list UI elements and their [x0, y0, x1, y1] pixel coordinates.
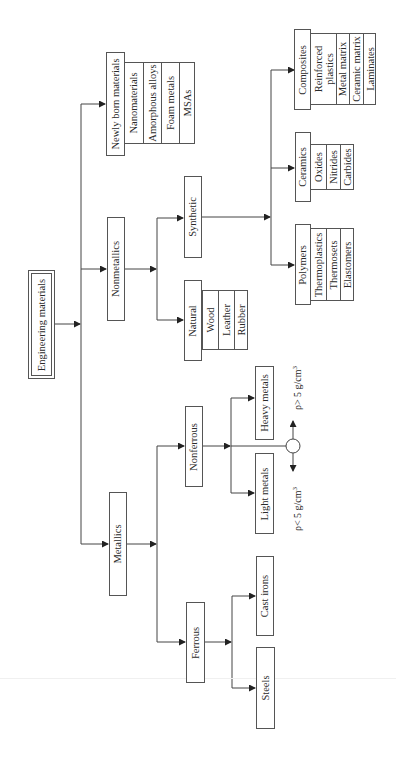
item-label: Wood — [205, 308, 216, 333]
density-exponent: 3 — [291, 366, 299, 370]
ceramics-items: Oxides Nitrides Carbides — [310, 144, 354, 190]
item-cell: Oxides — [311, 145, 326, 189]
item-label: Ceramic matrix — [351, 36, 362, 102]
item-label: MSAs — [182, 90, 193, 117]
node-light-metals: Light metals — [255, 453, 274, 534]
node-ceramics: Ceramics — [295, 132, 311, 202]
newly-born-items: Nanomaterials Amorphous alloys Foam meta… — [124, 62, 195, 144]
item-cell: MSAs — [179, 63, 196, 143]
item-label: Amorphous alloys — [147, 64, 158, 141]
item-cell: Carbides — [340, 145, 355, 189]
node-label: Ferrous — [190, 626, 201, 658]
node-ferrous: Ferrous — [186, 602, 205, 683]
node-label: Newly born materials — [110, 59, 121, 150]
node-polymers: Polymers — [295, 224, 311, 305]
item-cell: Ceramic matrix — [349, 34, 363, 104]
node-label: Heavy metals — [259, 374, 270, 431]
item-cell: Elastomers — [340, 229, 355, 300]
item-label: Thermoplastics — [313, 232, 324, 297]
node-synthetic: Synthetic — [184, 176, 202, 258]
composites-items: Reinforced plastics Metal matrix Ceramic… — [310, 33, 376, 105]
node-nonferrous: Nonferrous — [185, 406, 203, 487]
item-label: Thermosets — [328, 240, 339, 289]
item-cell: Leather — [218, 291, 234, 349]
node-cast-irons: Cast irons — [256, 556, 274, 636]
density-below-label: ρ< 5 g/cm3 — [291, 487, 303, 531]
node-label: Composites — [297, 45, 308, 95]
item-cell: Foam metals — [161, 63, 179, 143]
node-label: Nonferrous — [188, 423, 199, 471]
node-label: Ceramics — [297, 147, 308, 187]
item-cell: Thermosets — [326, 229, 340, 300]
item-label: Oxides — [313, 152, 324, 182]
item-cell: Wood — [203, 291, 218, 349]
item-label: Laminates — [365, 47, 376, 91]
root-label: Engineering materials — [36, 278, 47, 370]
item-label: Foam metals — [165, 76, 176, 130]
item-label: Rubber — [236, 305, 247, 336]
item-label: Carbides — [342, 148, 353, 185]
node-metallics: Metallics — [109, 492, 127, 596]
density-above-text: ρ> 5 g/cm — [292, 369, 303, 410]
item-label: Reinforced plastics — [312, 39, 334, 99]
item-cell: Laminates — [363, 34, 377, 104]
item-cell: Nitrides — [326, 145, 340, 189]
natural-items: Wood Leather Rubber — [202, 290, 248, 350]
root-node: Engineering materials — [28, 270, 55, 379]
node-label: Nonmetallics — [110, 241, 121, 297]
item-label: Leather — [221, 304, 232, 336]
item-label: Metal matrix — [337, 42, 348, 97]
item-cell: Reinforced plastics — [311, 34, 336, 104]
node-label: Steels — [260, 675, 271, 700]
item-cell: Metal matrix — [336, 34, 349, 104]
node-natural: Natural — [184, 280, 202, 361]
node-composites: Composites — [294, 29, 311, 110]
node-heavy-metals: Heavy metals — [255, 366, 274, 440]
node-nonmetallics: Nonmetallics — [107, 217, 125, 321]
density-below-text: ρ< 5 g/cm — [292, 490, 303, 531]
density-above-label: ρ> 5 g/cm3 — [291, 366, 303, 410]
node-steels: Steels — [256, 647, 275, 729]
polymers-items: Thermoplastics Thermosets Elastomers — [310, 228, 354, 301]
node-newly-born: Newly born materials — [106, 52, 125, 156]
node-label: Cast irons — [259, 575, 270, 617]
item-label: Nitrides — [328, 150, 339, 184]
item-cell: Thermoplastics — [311, 229, 326, 300]
node-label: Light metals — [259, 467, 270, 520]
node-label: Polymers — [297, 245, 308, 285]
item-label: Nanomaterials — [128, 72, 139, 133]
item-cell: Amorphous alloys — [143, 63, 161, 143]
node-label: Natural — [187, 305, 198, 337]
node-label: Metallics — [112, 524, 123, 563]
density-exponent: 3 — [291, 487, 299, 491]
item-cell: Nanomaterials — [125, 63, 143, 143]
item-label: Elastomers — [342, 241, 353, 288]
item-cell: Rubber — [234, 291, 249, 349]
node-label: Synthetic — [187, 197, 198, 237]
